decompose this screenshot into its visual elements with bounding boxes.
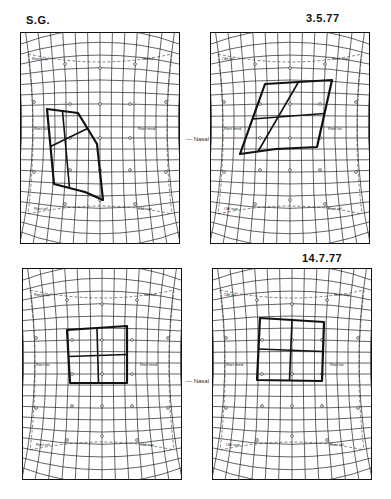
svg-text:Obl inf: Obl inf [222, 56, 234, 61]
nasal-label-top: — Nasal [186, 136, 209, 142]
svg-text:Obl sup: Obl sup [138, 206, 153, 211]
date-title-bottom-right: 14.7.77 [302, 252, 342, 264]
svg-text:Rect med: Rect med [224, 126, 241, 131]
svg-text:Rect lat: Rect lat [328, 126, 342, 131]
svg-text:Obl inf: Obl inf [144, 292, 156, 297]
svg-text:Rect sup: Rect sup [34, 292, 51, 297]
svg-text:Rect med: Rect med [226, 362, 243, 367]
subject-title: S.G. [26, 14, 50, 26]
svg-text:Rect sup: Rect sup [32, 56, 49, 61]
svg-text:Rect inf: Rect inf [34, 206, 48, 211]
date-title-top-right: 3.5.77 [306, 12, 340, 24]
hess-chart-top-right: Obl infRect supRect medRect latObl supRe… [210, 32, 370, 244]
svg-text:Obl inf: Obl inf [224, 292, 236, 297]
hess-chart-bottom-left: Rect supObl infRect latRect medRect infO… [22, 268, 182, 480]
svg-text:Rect lat: Rect lat [330, 362, 344, 367]
svg-text:Rect med: Rect med [140, 362, 157, 367]
svg-text:Rect inf: Rect inf [330, 442, 344, 447]
hess-chart-bottom-right: Obl infRect supRect medRect latObl supRe… [212, 268, 372, 480]
svg-text:Obl sup: Obl sup [224, 206, 239, 211]
svg-text:Obl inf: Obl inf [142, 56, 154, 61]
svg-text:Rect lat: Rect lat [36, 362, 50, 367]
svg-text:Rect sup: Rect sup [334, 292, 351, 297]
svg-text:Obl sup: Obl sup [140, 442, 155, 447]
nasal-label-bottom: — Nasal [186, 378, 209, 384]
svg-text:Rect med: Rect med [138, 126, 155, 131]
svg-text:Rect inf: Rect inf [328, 206, 342, 211]
svg-text:Rect lat: Rect lat [34, 126, 48, 131]
hess-chart-top-left: Rect supObl infRect latRect medRect infO… [20, 32, 180, 244]
svg-text:Obl sup: Obl sup [226, 442, 241, 447]
svg-text:Rect inf: Rect inf [36, 442, 50, 447]
svg-text:Rect sup: Rect sup [332, 56, 349, 61]
